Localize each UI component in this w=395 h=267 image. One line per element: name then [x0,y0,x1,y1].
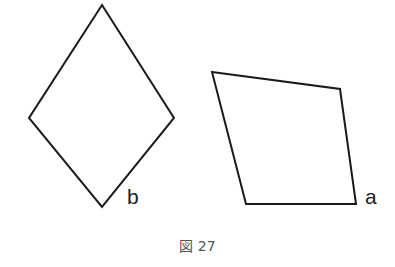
shape-b-label: b [127,185,139,208]
shape-b-rhombus [29,5,174,207]
figure-caption: 図 27 [0,235,395,255]
shape-a-label: a [365,185,377,208]
shape-a-quadrilateral [212,72,356,204]
figure-canvas: b a [0,0,395,267]
